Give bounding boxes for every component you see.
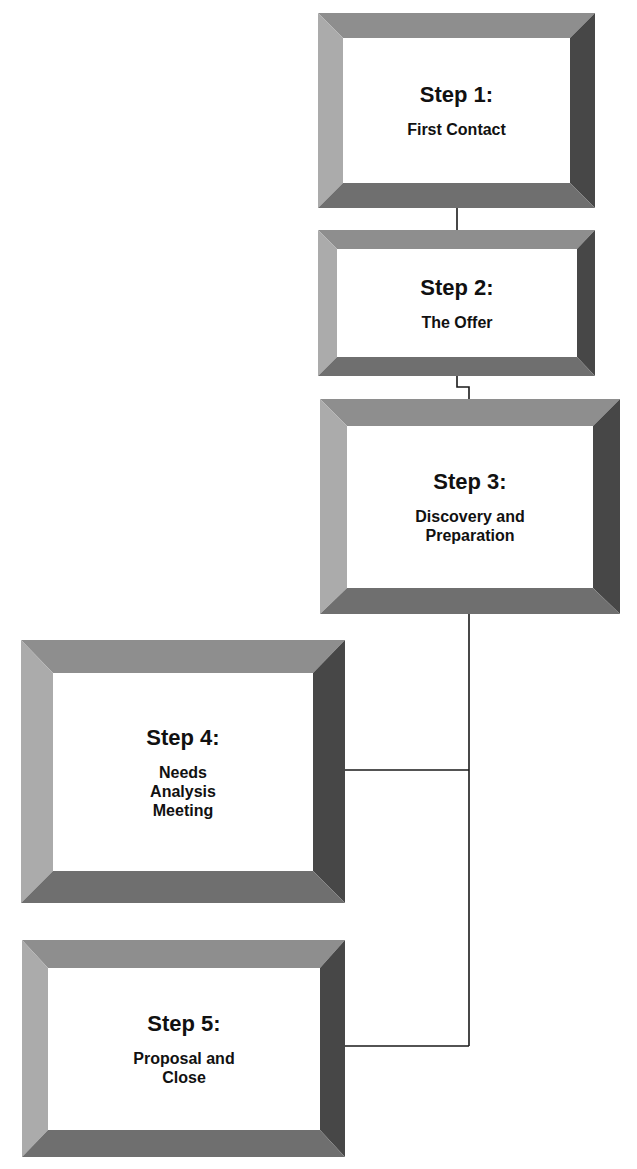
step-5-label: Proposal and Close (133, 1049, 234, 1087)
step-2-title: Step 2: (420, 275, 493, 301)
step-2-face: Step 2: The Offer (337, 249, 577, 357)
step-4-box: Step 4: Needs Analysis Meeting (21, 640, 345, 903)
step-4-title: Step 4: (146, 725, 219, 751)
step-3-face: Step 3: Discovery and Preparation (347, 426, 593, 588)
step-4-face: Step 4: Needs Analysis Meeting (53, 673, 313, 871)
step-4-label: Needs Analysis Meeting (150, 763, 216, 820)
step-1-face: Step 1: First Contact (343, 38, 570, 183)
step-1-box: Step 1: First Contact (318, 13, 595, 208)
step-1-title: Step 1: (420, 82, 493, 108)
step-2-box: Step 2: The Offer (318, 230, 595, 376)
step-3-box: Step 3: Discovery and Preparation (320, 399, 620, 614)
step-1-label: First Contact (407, 120, 506, 139)
step-3-label: Discovery and Preparation (415, 507, 524, 545)
step-5-box: Step 5: Proposal and Close (22, 940, 345, 1157)
step-2-label: The Offer (421, 313, 492, 332)
connector-step2-step3 (457, 376, 469, 399)
step-5-title: Step 5: (147, 1011, 220, 1037)
step-5-face: Step 5: Proposal and Close (48, 968, 320, 1130)
step-3-title: Step 3: (433, 469, 506, 495)
